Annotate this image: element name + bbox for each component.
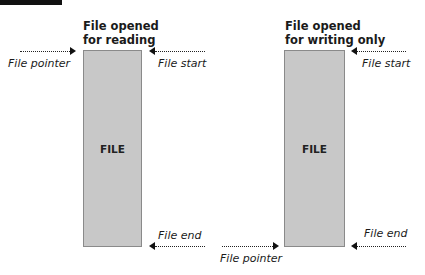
file-box: FILE: [284, 50, 345, 247]
start-arrow-left: [351, 47, 406, 55]
pointer-arrow-right: [20, 47, 76, 55]
pointer-label: File pointer: [220, 252, 282, 265]
diagram-title-writing: File opened for writing only: [285, 19, 385, 47]
header-rule: [0, 0, 62, 5]
pointer-label: File pointer: [8, 57, 70, 70]
file-box-label: FILE: [285, 143, 344, 155]
end-label: File end: [158, 229, 201, 242]
file-box-label: FILE: [84, 143, 141, 155]
arrowhead-icon: [70, 47, 76, 55]
end-arrow-left: [351, 242, 406, 250]
pointer-arrow-right: [222, 242, 279, 250]
title-line-1: File opened: [83, 19, 159, 33]
arrowhead-icon: [273, 242, 279, 250]
title-line-2: for reading: [83, 33, 159, 47]
file-box: FILE: [83, 50, 142, 247]
end-arrow-left: [149, 242, 205, 250]
start-arrow-left: [149, 47, 205, 55]
start-label: File start: [362, 57, 410, 70]
start-label: File start: [158, 57, 206, 70]
title-line-1: File opened: [285, 19, 385, 33]
diagram-title-reading: File opened for reading: [83, 19, 159, 47]
end-label: File end: [364, 227, 407, 240]
title-line-2: for writing only: [285, 33, 385, 47]
